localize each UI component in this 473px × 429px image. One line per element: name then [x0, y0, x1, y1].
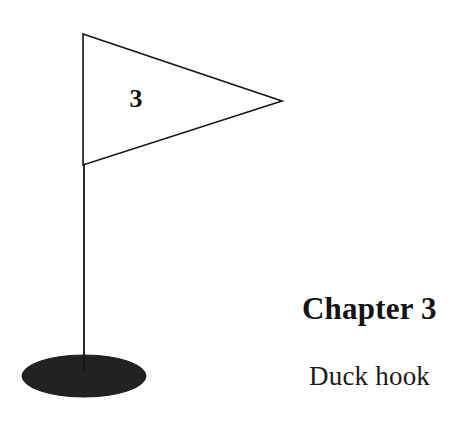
flag-pennant [83, 34, 282, 165]
page-canvas: 3 Chapter 3 Duck hook [0, 0, 473, 429]
golf-flag-illustration: 3 [0, 0, 473, 429]
flag-number-label: 3 [130, 84, 143, 113]
